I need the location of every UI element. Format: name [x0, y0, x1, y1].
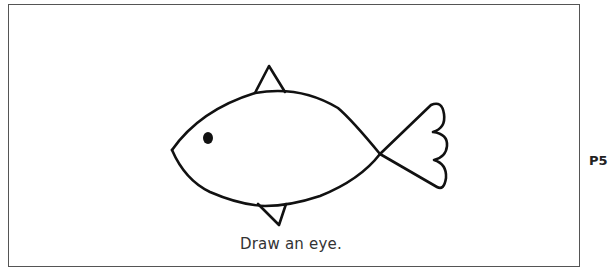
fish-eye-icon	[203, 132, 213, 144]
top-fin-icon	[255, 66, 285, 93]
page-label: P5	[589, 153, 608, 168]
fish-body-icon	[172, 91, 380, 154]
instruction-text: Draw an eye.	[240, 235, 342, 253]
tail-fin-icon	[380, 104, 447, 188]
